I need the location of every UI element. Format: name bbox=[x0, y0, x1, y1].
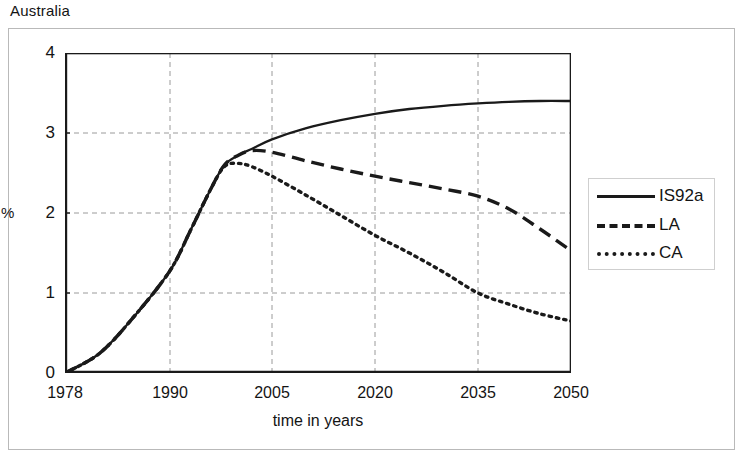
legend-line-sample-dashed bbox=[597, 224, 655, 228]
series-line-ca bbox=[65, 163, 571, 373]
y-tick-label-0: 0 bbox=[21, 364, 55, 381]
page-title: Australia bbox=[10, 2, 70, 19]
series-line-la bbox=[65, 150, 571, 373]
x-tick-label-1978: 1978 bbox=[30, 385, 100, 401]
legend-item-2: CA bbox=[597, 240, 709, 266]
y-tick-label-4: 4 bbox=[21, 44, 55, 61]
chart-legend: IS92a LA CA bbox=[588, 178, 715, 270]
legend-label-2: CA bbox=[659, 242, 683, 264]
legend-line-sample-dotted bbox=[597, 252, 655, 256]
y-tick-label-3: 3 bbox=[21, 124, 55, 141]
legend-label-1: LA bbox=[659, 214, 680, 236]
x-axis-title: time in years bbox=[188, 413, 448, 429]
legend-line-sample-solid bbox=[597, 195, 655, 198]
x-tick-label-2005: 2005 bbox=[237, 385, 307, 401]
x-tick-label-1990: 1990 bbox=[135, 385, 205, 401]
legend-label-0: IS92a bbox=[659, 185, 703, 207]
x-tick-label-2050: 2050 bbox=[536, 385, 606, 401]
y-axis-title: % bbox=[1, 205, 14, 220]
legend-item-0: IS92a bbox=[597, 183, 709, 209]
chart-svg bbox=[65, 53, 571, 373]
series-line-is92a bbox=[65, 101, 571, 373]
plot-area bbox=[65, 53, 571, 373]
legend-item-1: LA bbox=[597, 212, 709, 238]
x-tick-label-2020: 2020 bbox=[340, 385, 410, 401]
y-tick-label-2: 2 bbox=[21, 204, 55, 221]
y-tick-label-1: 1 bbox=[21, 284, 55, 301]
x-tick-label-2035: 2035 bbox=[443, 385, 513, 401]
